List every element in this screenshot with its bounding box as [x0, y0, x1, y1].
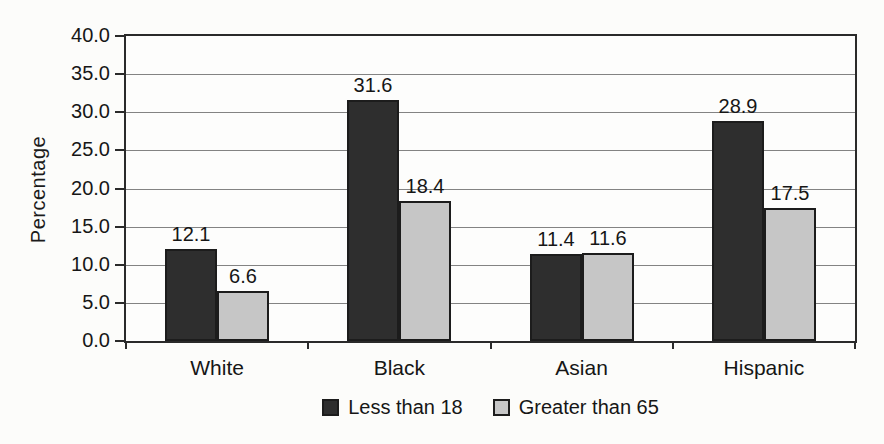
grouped-bar-chart: Percentage 12.16.631.618.411.411.628.917…	[0, 0, 884, 444]
legend-item-greater-than-65: Greater than 65	[493, 396, 659, 419]
legend: Less than 18 Greater than 65	[124, 396, 857, 419]
bar-value-label: 12.1	[151, 223, 231, 246]
legend-swatch-light-icon	[493, 399, 510, 416]
scanned-chart-page: Percentage 12.16.631.618.411.411.628.917…	[0, 0, 884, 444]
plot-area: 12.16.631.618.411.411.628.917.5	[124, 34, 857, 343]
x-tick-mark	[490, 341, 492, 349]
x-tick-mark	[125, 341, 127, 349]
bar-asian-greater-than-65	[582, 253, 634, 341]
y-tick-label: 20.0	[48, 177, 110, 200]
y-axis-title: Percentage	[27, 90, 50, 290]
y-tick-label: 15.0	[48, 215, 110, 238]
bar-asian-less-than-18	[530, 254, 582, 341]
legend-swatch-dark-icon	[322, 399, 339, 416]
y-tick-mark	[115, 340, 124, 342]
bar-white-less-than-18	[165, 249, 217, 341]
x-category-label: White	[147, 356, 287, 380]
bar-black-less-than-18	[347, 100, 399, 341]
y-tick-label: 0.0	[48, 329, 110, 352]
y-tick-mark	[115, 302, 124, 304]
bar-black-greater-than-65	[399, 201, 451, 341]
gridline	[126, 74, 855, 75]
legend-label: Greater than 65	[519, 396, 659, 419]
y-tick-mark	[115, 111, 124, 113]
bar-value-label: 18.4	[385, 175, 465, 198]
legend-item-less-than-18: Less than 18	[322, 396, 463, 419]
bar-hispanic-less-than-18	[712, 121, 764, 341]
bar-value-label: 31.6	[333, 74, 413, 97]
y-tick-mark	[115, 149, 124, 151]
x-category-label: Black	[329, 356, 469, 380]
legend-label: Less than 18	[348, 396, 463, 419]
x-category-label: Asian	[512, 356, 652, 380]
x-tick-mark	[854, 341, 856, 349]
bar-value-label: 28.9	[698, 95, 778, 118]
bar-value-label: 11.6	[568, 227, 648, 250]
y-tick-mark	[115, 188, 124, 190]
y-tick-mark	[115, 73, 124, 75]
y-tick-label: 30.0	[48, 100, 110, 123]
x-tick-mark	[672, 341, 674, 349]
bar-white-greater-than-65	[217, 291, 269, 341]
bar-value-label: 6.6	[203, 265, 283, 288]
y-tick-label: 40.0	[48, 24, 110, 47]
bar-value-label: 17.5	[750, 182, 830, 205]
y-tick-label: 5.0	[48, 291, 110, 314]
y-tick-label: 35.0	[48, 62, 110, 85]
y-tick-label: 10.0	[48, 253, 110, 276]
x-category-label: Hispanic	[694, 356, 834, 380]
x-tick-mark	[307, 341, 309, 349]
bar-hispanic-greater-than-65	[764, 208, 816, 341]
y-tick-mark	[115, 226, 124, 228]
y-tick-mark	[115, 264, 124, 266]
y-tick-mark	[115, 35, 124, 37]
y-tick-label: 25.0	[48, 138, 110, 161]
